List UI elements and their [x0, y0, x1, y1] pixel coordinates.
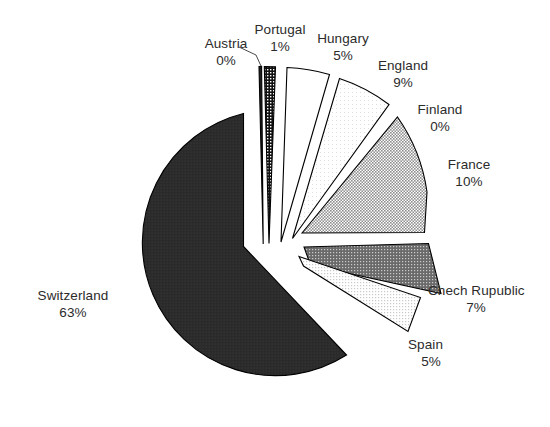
pie-slice-austria[interactable]	[259, 66, 263, 244]
pie-label-finland: Finland 0%	[398, 102, 482, 135]
pie-label-spain-name: Spain	[408, 337, 480, 354]
pie-label-england: England 9%	[360, 58, 446, 91]
pie-label-england-name: England	[360, 58, 446, 75]
pie-label-czech-republic: Chech Rupublic 7%	[428, 283, 538, 316]
pie-label-czech-republic-percent: 7%	[428, 300, 524, 317]
pie-chart-figure: Austria 0% Portugal 1% Hungary 5% Englan…	[0, 0, 550, 427]
pie-label-hungary-name: Hungary	[300, 31, 386, 48]
pie-slice-portugal[interactable]	[264, 67, 275, 244]
pie-label-spain-percent: 5%	[408, 354, 454, 371]
pie-slices-group	[142, 66, 441, 375]
pie-label-england-percent: 9%	[360, 75, 446, 92]
pie-label-france-name: France	[428, 157, 510, 174]
pie-label-france: France 10%	[428, 157, 510, 190]
pie-label-czech-republic-name: Chech Rupublic	[428, 283, 538, 300]
pie-label-switzerland: Switzerland 63%	[18, 288, 128, 321]
pie-label-switzerland-percent: 63%	[18, 305, 128, 322]
pie-label-france-percent: 10%	[428, 174, 510, 191]
pie-slice-switzerland[interactable]	[142, 114, 346, 376]
pie-label-spain: Spain 5%	[408, 337, 480, 370]
pie-label-finland-percent: 0%	[398, 119, 482, 136]
pie-label-switzerland-name: Switzerland	[18, 288, 128, 305]
pie-label-finland-name: Finland	[398, 102, 482, 119]
